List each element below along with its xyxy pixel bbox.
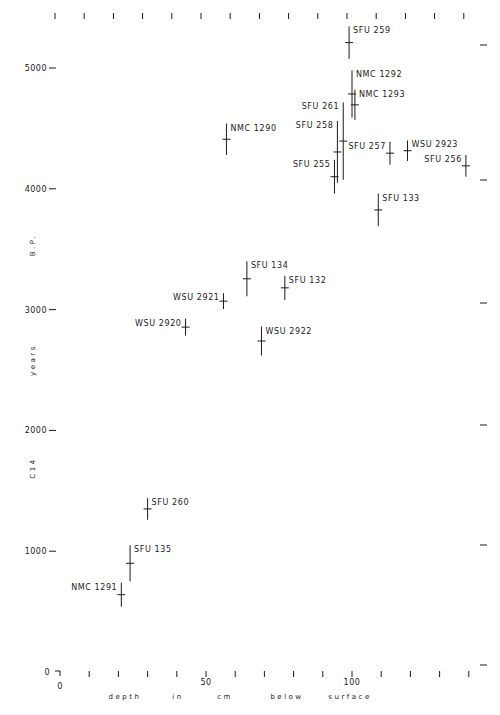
point-label: SFU 260 bbox=[152, 498, 190, 507]
x-axis-tick-labels: 050100 bbox=[57, 678, 360, 691]
y-title-word-group: B.P. bbox=[29, 234, 37, 256]
point-label: SFU 258 bbox=[296, 121, 334, 130]
x-title-word: below bbox=[270, 693, 303, 701]
y-axis-ticks bbox=[49, 68, 56, 551]
data-point: WSU 2920 bbox=[135, 319, 190, 336]
point-label: NMC 1290 bbox=[230, 124, 276, 133]
data-point: NMC 1293 bbox=[351, 90, 405, 120]
x-tick-label: 50 bbox=[200, 678, 211, 687]
y-title-word-group: years bbox=[29, 344, 37, 376]
x-tick-label: 0 bbox=[57, 682, 63, 691]
data-point: SFU 132 bbox=[281, 276, 327, 300]
y-title-word: B.P. bbox=[29, 234, 37, 256]
point-label: NMC 1291 bbox=[71, 583, 117, 592]
point-label: WSU 2923 bbox=[411, 140, 458, 149]
data-point: NMC 1291 bbox=[71, 583, 125, 607]
data-points: SFU 259NMC 1292NMC 1293SFU 261SFU 258SFU… bbox=[71, 26, 470, 606]
point-label: WSU 2921 bbox=[173, 293, 220, 302]
point-label: SFU 261 bbox=[302, 102, 340, 111]
point-label: NMC 1293 bbox=[359, 90, 405, 99]
data-point: WSU 2922 bbox=[257, 327, 312, 356]
x-axis-ticks bbox=[55, 671, 469, 677]
top-axis-ticks bbox=[55, 13, 464, 19]
origin-corner bbox=[55, 671, 60, 676]
data-point: SFU 259 bbox=[345, 26, 391, 59]
point-label: WSU 2922 bbox=[265, 327, 312, 336]
data-point: SFU 257 bbox=[348, 142, 394, 165]
data-point: WSU 2921 bbox=[173, 293, 228, 309]
x-tick-label: 100 bbox=[344, 678, 361, 687]
data-point: SFU 256 bbox=[424, 155, 470, 177]
data-point: NMC 1290 bbox=[222, 124, 276, 155]
radiocarbon-depth-chart: 050100 010002000300040005000 depthincmbe… bbox=[0, 0, 500, 715]
y-axis-title: C14yearsB.P. bbox=[29, 234, 37, 479]
data-point: SFU 135 bbox=[126, 545, 172, 581]
point-label: WSU 2920 bbox=[135, 319, 182, 328]
y-tick-label: 0 bbox=[44, 668, 50, 677]
y-tick-label: 3000 bbox=[25, 306, 47, 315]
point-label: SFU 132 bbox=[289, 276, 327, 285]
point-label: SFU 257 bbox=[348, 142, 386, 151]
right-axis-ticks bbox=[480, 45, 487, 665]
y-tick-label: 4000 bbox=[25, 185, 47, 194]
y-title-word-group: C14 bbox=[29, 457, 37, 478]
x-title-word: in bbox=[172, 693, 183, 701]
y-title-word: years bbox=[29, 344, 37, 376]
point-label: SFU 259 bbox=[353, 26, 391, 35]
point-label: SFU 256 bbox=[424, 155, 462, 164]
x-axis-title: depthincmbelowsurface bbox=[109, 693, 372, 701]
point-label: SFU 135 bbox=[134, 545, 172, 554]
data-point: SFU 255 bbox=[293, 160, 339, 194]
y-tick-label: 1000 bbox=[25, 547, 47, 556]
x-title-word: surface bbox=[328, 693, 371, 701]
chart-canvas: 050100 010002000300040005000 depthincmbe… bbox=[0, 0, 500, 715]
point-label: SFU 133 bbox=[382, 194, 420, 203]
point-label: SFU 134 bbox=[251, 261, 289, 270]
data-point: SFU 133 bbox=[374, 194, 420, 227]
y-tick-label: 2000 bbox=[25, 426, 47, 435]
point-label: SFU 255 bbox=[293, 160, 331, 169]
data-point: SFU 260 bbox=[144, 498, 190, 520]
x-title-word: cm bbox=[217, 693, 233, 701]
x-title-word: depth bbox=[109, 693, 142, 701]
y-title-word: C14 bbox=[29, 457, 37, 478]
point-label: NMC 1292 bbox=[356, 70, 402, 79]
y-tick-label: 5000 bbox=[25, 64, 47, 73]
data-point: SFU 134 bbox=[243, 261, 289, 296]
